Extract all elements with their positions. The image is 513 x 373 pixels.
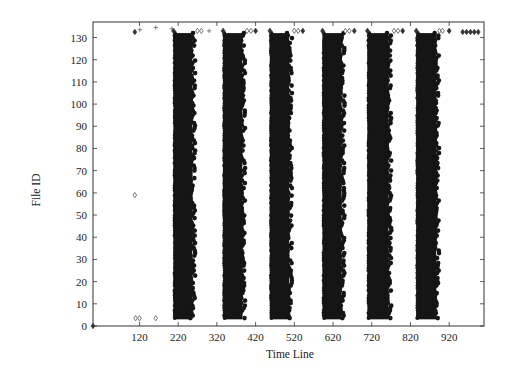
x-tick-label: 220 — [170, 331, 187, 343]
filled-diamond-marker — [465, 29, 469, 35]
y-tick-label: 90 — [76, 120, 88, 132]
y-tick-label: 10 — [76, 298, 88, 310]
plus-marker — [154, 25, 158, 29]
x-tick-label: 420 — [247, 331, 264, 343]
open-diamond-marker — [396, 28, 400, 33]
filled-diamond-marker — [447, 28, 451, 34]
open-diamond-marker — [392, 28, 396, 33]
x-tick-label: 820 — [402, 331, 419, 343]
y-axis-label: File ID — [30, 174, 42, 207]
chart: 120220320420520620720820920 010203040506… — [0, 0, 513, 373]
filled-diamond-marker — [476, 29, 480, 35]
open-diamond-marker — [138, 316, 142, 321]
filled-diamond-marker — [133, 29, 137, 35]
filled-diamond-marker — [461, 29, 465, 35]
filled-diamond-marker — [401, 28, 405, 34]
open-diamond-marker — [154, 316, 158, 321]
x-tick-label: 920 — [441, 331, 458, 343]
x-tick-label: 320 — [209, 331, 226, 343]
dense-bands — [173, 31, 442, 321]
filled-diamond-marker — [301, 28, 305, 34]
x-tick-label: 620 — [325, 331, 342, 343]
open-diamond-marker — [441, 28, 445, 33]
open-diamond-marker — [133, 192, 137, 197]
dense-band — [322, 31, 347, 321]
y-tick-label: 40 — [76, 231, 88, 243]
open-diamond-marker — [200, 28, 204, 33]
open-diamond-marker — [249, 28, 253, 33]
y-tick-label: 100 — [71, 98, 88, 110]
filled-diamond-marker — [352, 28, 356, 34]
filled-diamond-marker — [472, 29, 476, 35]
open-diamond-marker — [196, 28, 200, 33]
x-axis-label: Time Line — [266, 348, 314, 360]
y-tick-label: 50 — [76, 209, 88, 221]
y-tick-label: 120 — [71, 54, 88, 66]
x-tick-label: 520 — [286, 331, 303, 343]
y-tick-label: 130 — [71, 32, 88, 44]
open-diamond-marker — [347, 28, 351, 33]
dense-band — [366, 31, 393, 321]
plus-marker — [207, 29, 211, 33]
filled-diamond-marker — [254, 28, 258, 34]
y-tick-label: 0 — [82, 320, 88, 332]
filled-diamond-marker — [468, 29, 472, 35]
y-tick-label: 80 — [76, 142, 88, 154]
y-tick-label: 20 — [76, 276, 88, 288]
y-tick-label: 70 — [76, 165, 88, 177]
plus-marker — [138, 28, 142, 32]
y-tick-label: 60 — [76, 187, 88, 199]
open-diamond-marker — [134, 316, 138, 321]
open-diamond-marker — [293, 28, 297, 33]
dense-band — [222, 31, 247, 321]
dense-band — [415, 31, 441, 321]
x-tick-label: 120 — [131, 331, 148, 343]
x-tick-label: 720 — [363, 331, 380, 343]
y-tick-label: 110 — [71, 76, 88, 88]
open-diamond-marker — [296, 28, 300, 33]
dense-band — [269, 31, 294, 321]
dense-band — [173, 31, 198, 321]
y-tick-label: 30 — [76, 253, 88, 265]
